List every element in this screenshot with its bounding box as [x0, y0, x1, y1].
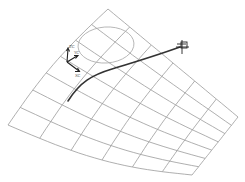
- zc-label: ZC: [69, 44, 75, 49]
- mesh-line: [162, 99, 216, 172]
- y-axis-arrow: [67, 56, 77, 62]
- xc-label: XC: [75, 73, 80, 78]
- mesh-line: [76, 40, 225, 133]
- mesh-line: [108, 9, 238, 117]
- mesh-line: [132, 81, 194, 167]
- yc-label: YC: [73, 50, 79, 55]
- mesh-line: [192, 117, 238, 175]
- endpoint-marker[interactable]: [176, 40, 189, 54]
- wcs-triad: ZC YC XC: [67, 44, 81, 78]
- ellipse-sketch: [77, 25, 135, 65]
- z-axis-arrow: [67, 49, 68, 62]
- mesh-line: [102, 63, 173, 160]
- surface-mesh: [8, 9, 238, 175]
- mesh-line: [92, 25, 232, 126]
- cad-viewport[interactable]: ZC YC XC: [0, 0, 245, 182]
- mesh-line: [8, 9, 108, 125]
